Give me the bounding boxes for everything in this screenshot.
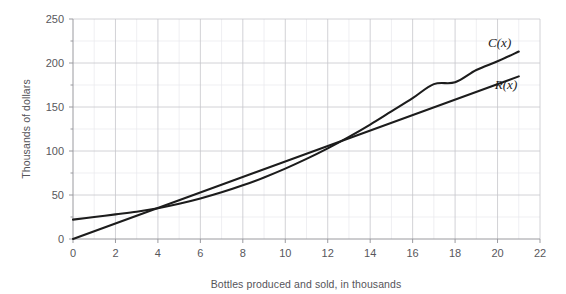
x-tick-label: 20 [491,247,503,259]
x-axis-title: Bottles produced and sold, in thousands [211,278,402,290]
x-tick-label: 10 [279,247,291,259]
curve-label-cx: C(x) [488,35,511,50]
y-axis-title: Thousands of dollars [20,79,32,178]
x-tick-label: 12 [322,247,334,259]
tick-marks [69,19,540,243]
y-tick-label: 0 [58,233,64,245]
minor-gridlines [73,19,540,239]
chart-canvas: 0246810121416182022 050100150200250 C(x)… [0,0,566,294]
x-tick-label: 22 [534,247,546,259]
x-tick-label: 2 [112,247,118,259]
series-line-rx [73,76,519,239]
y-tick-labels: 050100150200250 [46,13,64,245]
x-tick-label: 4 [155,247,161,259]
x-tick-label: 16 [407,247,419,259]
y-tick-label: 200 [46,57,64,69]
series-lines [73,52,519,239]
x-tick-label: 14 [364,247,376,259]
curve-label-rx: R(x) [494,77,517,92]
y-tick-label: 150 [46,101,64,113]
y-tick-label: 250 [46,13,64,25]
cost-revenue-chart: 0246810121416182022 050100150200250 C(x)… [0,0,566,294]
x-tick-label: 8 [240,247,246,259]
x-tick-label: 0 [70,247,76,259]
y-tick-label: 100 [46,145,64,157]
x-tick-labels: 0246810121416182022 [70,247,546,259]
y-tick-label: 50 [52,189,64,201]
series-line-cx [73,52,519,220]
x-tick-label: 6 [197,247,203,259]
x-tick-label: 18 [449,247,461,259]
